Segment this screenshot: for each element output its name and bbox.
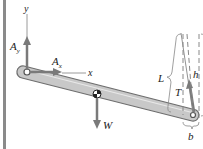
force-ay-label: Ay	[9, 40, 21, 55]
force-t-label: T	[175, 86, 182, 98]
frame-border	[3, 0, 6, 149]
force-w-arrow	[93, 98, 101, 129]
center-of-gravity-icon	[93, 90, 101, 98]
force-ax-label: Ax	[51, 55, 63, 70]
dimension-l-label: L	[157, 72, 164, 84]
x-axis-label: x	[87, 67, 93, 78]
pin-end	[191, 113, 196, 118]
force-ay-arrow	[23, 36, 31, 70]
y-axis-label: y	[23, 3, 29, 14]
force-w-label: W	[103, 119, 113, 131]
dimension-l-brace	[167, 34, 181, 112]
dimension-b-brace	[183, 122, 199, 129]
free-body-diagram: y x Ay Ax W T L	[0, 0, 203, 149]
dimension-b-label: b	[188, 130, 194, 142]
dimension-h-label: h	[193, 68, 199, 80]
dimension-h-brace	[201, 34, 203, 116]
